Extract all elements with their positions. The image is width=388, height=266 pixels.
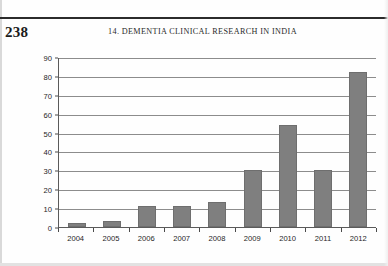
y-axis-tick-label: 60 [44,110,52,119]
x-axis-tick-label: 2010 [270,234,305,243]
y-axis-tick-label: 20 [44,186,52,195]
bar-slot [200,58,235,227]
header-rule [0,17,388,19]
x-axis-tick [93,228,94,232]
chapter-title: 14. DEMENTIA CLINICAL RESEARCH IN INDIA [108,27,297,36]
x-axis-tick [129,228,130,232]
bar-slot [235,58,270,227]
running-head: 238 14. DEMENTIA CLINICAL RESEARCH IN IN… [0,24,388,42]
bar-slot [165,58,200,227]
bar-slot [306,58,341,227]
x-axis-tick-label: 2008 [199,234,234,243]
y-axis-tick-label: 0 [48,224,52,233]
x-axis-tick-label: 2006 [129,234,164,243]
x-axis-tick-label: 2004 [58,234,93,243]
x-axis-tick-label: 2011 [305,234,340,243]
y-axis-tick-label: 70 [44,91,52,100]
y-axis-tick-label: 30 [44,167,52,176]
x-axis-tick [341,228,342,232]
bar-chart: 0102030405060708090 20042005200620072008… [33,58,378,256]
scanned-page: 238 14. DEMENTIA CLINICAL RESEARCH IN IN… [0,0,388,266]
bar-slot [94,58,129,227]
y-axis-tick-label: 40 [44,148,52,157]
bar [138,206,156,227]
y-axis-tick-label: 10 [44,205,52,214]
bar [173,206,191,227]
x-axis-tick [305,228,306,232]
x-axis-tick-label: 2012 [341,234,376,243]
bar-slot [59,58,94,227]
bar [279,125,297,227]
x-axis-tick [270,228,271,232]
x-axis-tick [164,228,165,232]
x-axis-tick [235,228,236,232]
x-axis-tick-label: 2007 [164,234,199,243]
y-axis-tick-label: 80 [44,72,52,81]
y-axis-tick-label: 50 [44,129,52,138]
y-axis-tick-label: 90 [44,54,52,63]
bar [208,202,226,227]
x-axis-tick [199,228,200,232]
plot-area [58,58,376,228]
bar-slot [129,58,164,227]
bar-slot [341,58,376,227]
x-axis: 200420052006200720082009201020112012 [58,228,376,254]
bar [68,223,86,227]
bar-slot [270,58,305,227]
x-axis-tick [58,228,59,232]
x-axis-labels: 200420052006200720082009201020112012 [58,234,376,243]
bar [314,170,332,227]
y-axis-labels: 0102030405060708090 [33,58,55,228]
x-axis-tick-label: 2009 [235,234,270,243]
x-axis-tick [376,228,377,232]
x-axis-tick-label: 2005 [93,234,128,243]
bar [349,72,367,227]
page-number: 238 [5,24,28,41]
bar-series [59,58,376,227]
bar [103,221,121,227]
bar [244,170,262,227]
